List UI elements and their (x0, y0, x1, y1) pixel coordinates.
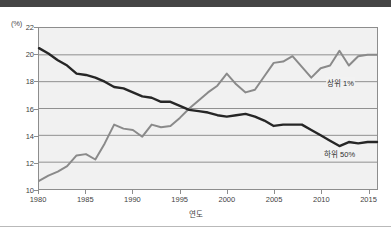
x-axis-tick-label: 1990 (112, 195, 152, 204)
x-axis-tickmark (85, 190, 86, 194)
series-line-bottom50 (39, 48, 377, 146)
series-lines (39, 28, 377, 189)
bottom-divider (0, 226, 391, 227)
x-axis-tickmark (38, 190, 39, 194)
chart-screenshot: (%) 10121416182022 상위 1% 하위 50% 19801985… (0, 0, 391, 233)
series-line-top1 (39, 51, 377, 181)
y-axis-tick-labels: 10121416182022 (0, 27, 34, 190)
x-axis-tickmark (132, 190, 133, 194)
series-annotation-top1: 상위 1% (326, 77, 355, 88)
y-axis-tick-label: 22 (4, 23, 34, 32)
x-axis-tick-label: 1980 (18, 195, 58, 204)
y-axis-tick-label: 20 (4, 50, 34, 59)
top-dark-band (0, 0, 391, 7)
x-axis-tick-label: 2010 (301, 195, 341, 204)
x-axis-tick-label: 2005 (254, 195, 294, 204)
x-axis-tickmark (321, 190, 322, 194)
x-axis-tickmark (180, 190, 181, 194)
y-axis-tick-label: 16 (4, 104, 34, 113)
x-axis-tick-label: 2015 (349, 195, 389, 204)
x-axis-tick-label: 1985 (65, 195, 105, 204)
y-axis-tick-label: 18 (4, 77, 34, 86)
x-axis-tickmark (274, 190, 275, 194)
chart-figure: (%) 10121416182022 상위 1% 하위 50% 19801985… (0, 7, 391, 226)
x-axis-tickmark (369, 190, 370, 194)
y-axis-tick-label: 10 (4, 186, 34, 195)
y-axis-tick-label: 14 (4, 131, 34, 140)
x-axis-tickmark (227, 190, 228, 194)
plot-area: 상위 1% 하위 50% (38, 27, 378, 190)
x-axis-tick-labels: 19801985199019952000200520102015 (38, 195, 378, 209)
y-axis-tick-label: 12 (4, 158, 34, 167)
gridlines-group (39, 55, 377, 162)
x-axis-title: 연도 (0, 208, 391, 219)
x-axis-tick-label: 1995 (160, 195, 200, 204)
series-annotation-bottom50: 하위 50% (323, 148, 356, 159)
x-axis-tick-label: 2000 (207, 195, 247, 204)
